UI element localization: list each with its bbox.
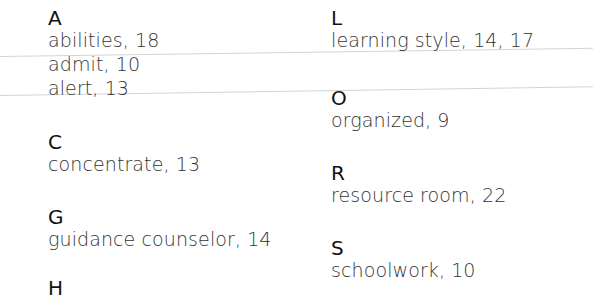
index-group-c: C concentrate, 13 [48, 132, 200, 176]
index-letter-heading: L [331, 8, 534, 28]
index-entry: admit, 10 [48, 52, 159, 76]
index-entry: guidance counselor, 14 [48, 227, 272, 251]
index-entry: alert, 13 [48, 76, 159, 100]
index-letter-heading-partial: H [48, 278, 63, 298]
index-letter-heading: R [331, 163, 506, 183]
index-group-s: S schoolwork, 10 [331, 238, 476, 282]
index-group-r: R resource room, 22 [331, 163, 506, 207]
index-letter-heading: G [48, 207, 272, 227]
index-group-l: L learning style, 14, 17 [331, 8, 534, 52]
index-entry: schoolwork, 10 [331, 258, 476, 282]
index-letter-heading: A [48, 8, 159, 28]
index-letter-heading: C [48, 132, 200, 152]
index-letter-heading: O [331, 88, 450, 108]
index-entry: organized, 9 [331, 108, 450, 132]
index-entry: resource room, 22 [331, 183, 506, 207]
index-group-a: A abilities, 18 admit, 10 alert, 13 [48, 8, 159, 100]
index-entry: abilities, 18 [48, 28, 159, 52]
index-entry: learning style, 14, 17 [331, 28, 534, 52]
index-letter-heading: S [331, 238, 476, 258]
index-group-g: G guidance counselor, 14 [48, 207, 272, 251]
index-group-o: O organized, 9 [331, 88, 450, 132]
index-entry: concentrate, 13 [48, 152, 200, 176]
